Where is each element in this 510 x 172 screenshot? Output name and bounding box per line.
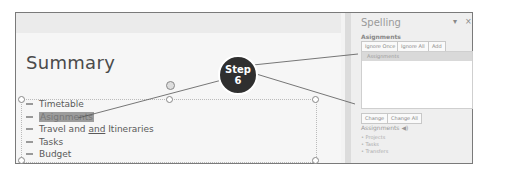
step-callout-badge: Step 6 xyxy=(218,55,258,95)
step-number: 6 xyxy=(220,75,256,86)
callout-connector-lines xyxy=(0,0,510,172)
step-label: Step xyxy=(220,64,256,75)
